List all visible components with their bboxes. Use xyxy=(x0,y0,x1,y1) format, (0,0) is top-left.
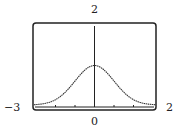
x-min-label: −3 xyxy=(4,102,20,113)
x-max-label: 2 xyxy=(166,102,173,113)
y-max-label: 2 xyxy=(91,4,98,15)
origin-label: 0 xyxy=(91,116,98,127)
